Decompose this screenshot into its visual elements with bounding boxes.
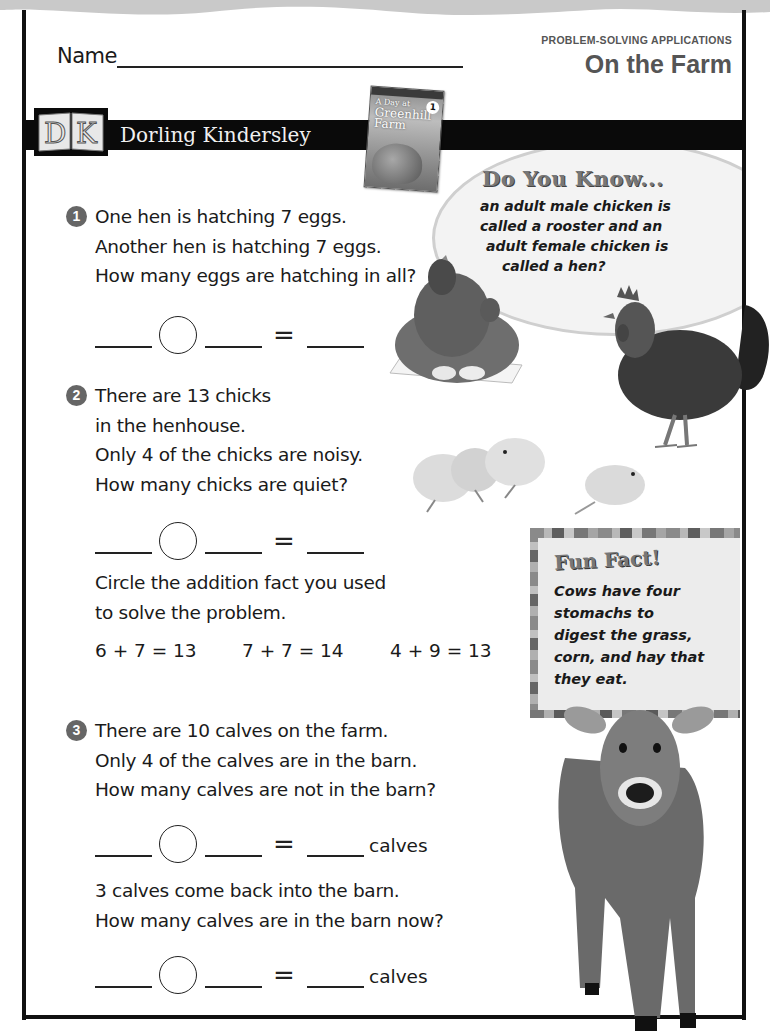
page-title: On the Farm: [585, 50, 732, 79]
fun-fact-line: they eat.: [554, 668, 704, 690]
answer-blank-2[interactable]: [205, 986, 262, 988]
book-level-badge: 1: [426, 100, 440, 114]
answer-blank-2[interactable]: [205, 855, 262, 857]
do-you-know-line: an adult male chicken is: [480, 196, 671, 216]
chicks-photo: [405, 430, 665, 520]
question-2-text: There are 13 chicks in the henhouse. Onl…: [95, 381, 363, 499]
dk-logo: D K: [34, 108, 108, 156]
addition-fact-option[interactable]: 6 + 7 = 13: [95, 640, 242, 661]
fun-fact-text: Cows have four stomachs to digest the gr…: [554, 580, 704, 690]
fun-fact-box: Fun Fact! Cows have four stomachs to dig…: [530, 528, 740, 718]
question-line: How many calves are in the barn now?: [95, 906, 444, 936]
question-line: How many calves are not in the barn?: [95, 775, 436, 805]
question-line: How many chicks are quiet?: [95, 470, 363, 500]
answer-blank-1[interactable]: [95, 855, 152, 857]
unit-label: calves: [369, 835, 428, 856]
question-line: Circle the addition fact you used: [95, 568, 386, 598]
fun-fact-border: [530, 528, 538, 718]
operator-circle[interactable]: [159, 825, 197, 863]
do-you-know-line: called a rooster and an: [480, 216, 671, 236]
svg-text:D: D: [44, 117, 66, 150]
section-label: PROBLEM-SOLVING APPLICATIONS: [541, 34, 732, 46]
addition-fact-option[interactable]: 7 + 7 = 14: [242, 640, 390, 661]
question-line: There are 13 chicks: [95, 381, 363, 411]
answer-blank-result[interactable]: [307, 986, 364, 988]
answer-blank-1[interactable]: [95, 552, 152, 554]
do-you-know-title: Do You Know...: [482, 166, 664, 191]
fun-fact-line: stomachs to: [554, 602, 704, 624]
question-line: 3 calves come back into the barn.: [95, 876, 444, 906]
answer-blank-result[interactable]: [307, 855, 364, 857]
operator-circle[interactable]: [159, 956, 197, 994]
question-3-text: There are 10 calves on the farm. Only 4 …: [95, 716, 436, 805]
fun-fact-line: Cows have four: [554, 580, 704, 602]
fun-fact-line: corn, and hay that: [554, 646, 704, 668]
equals-sign: =: [273, 322, 295, 348]
question-3-followup: 3 calves come back into the barn. How ma…: [95, 876, 444, 935]
question-3-equation: = calves: [95, 823, 435, 863]
top-wave-decoration: [0, 0, 770, 26]
answer-blank-result[interactable]: [307, 346, 364, 348]
question-number-badge: 2: [66, 385, 87, 406]
question-line: to solve the problem.: [95, 598, 386, 628]
equals-sign: =: [273, 528, 295, 554]
fun-fact-title: Fun Fact!: [553, 545, 660, 575]
answer-blank-1[interactable]: [95, 986, 152, 988]
addition-fact-option[interactable]: 4 + 9 = 13: [390, 640, 492, 661]
publisher-name: Dorling Kindersley: [120, 120, 311, 150]
page-frame-right: [742, 10, 746, 1020]
answer-blank-2[interactable]: [205, 552, 262, 554]
question-line: Only 4 of the calves are in the barn.: [95, 746, 436, 776]
do-you-know-line: adult female chicken is: [480, 236, 671, 256]
operator-circle[interactable]: [159, 522, 197, 560]
svg-text:K: K: [76, 117, 98, 150]
book-title: A Day at Greenhill Farm: [374, 96, 433, 133]
equals-sign: =: [273, 962, 295, 988]
open-book-icon: D K: [37, 111, 105, 153]
question-line: There are 10 calves on the farm.: [95, 716, 436, 746]
question-line: Only 4 of the chicks are noisy.: [95, 440, 363, 470]
name-input-line[interactable]: [117, 66, 463, 68]
answer-blank-2[interactable]: [205, 346, 262, 348]
question-2-equation: =: [95, 520, 435, 560]
question-line: How many eggs are hatching in all?: [95, 261, 416, 291]
calf-photo: [545, 698, 720, 1033]
question-2-followup: Circle the addition fact you used to sol…: [95, 568, 386, 627]
question-3-equation-2: = calves: [95, 954, 435, 994]
unit-label: calves: [369, 966, 428, 987]
fun-fact-border: [530, 528, 740, 538]
name-label: Name: [57, 44, 117, 68]
question-line: One hen is hatching 7 eggs.: [95, 202, 416, 232]
question-1-equation: =: [95, 314, 435, 354]
fun-fact-line: digest the grass,: [554, 624, 704, 646]
question-number-badge: 3: [66, 720, 87, 741]
equals-sign: =: [273, 831, 295, 857]
question-1-text: One hen is hatching 7 eggs. Another hen …: [95, 202, 416, 291]
answer-blank-result[interactable]: [307, 552, 364, 554]
addition-facts: 6 + 7 = 137 + 7 = 144 + 9 = 13: [95, 640, 492, 661]
answer-blank-1[interactable]: [95, 346, 152, 348]
question-line: in the henhouse.: [95, 411, 363, 441]
question-line: Another hen is hatching 7 eggs.: [95, 232, 416, 262]
question-number-badge: 1: [66, 206, 87, 227]
operator-circle[interactable]: [159, 316, 197, 354]
